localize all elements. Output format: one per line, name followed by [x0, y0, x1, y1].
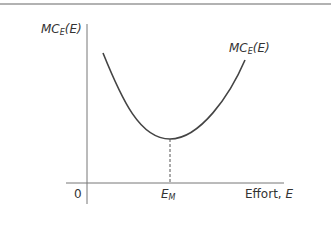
curve-label: MCE(E)	[229, 41, 270, 55]
origin-label: 0	[74, 187, 82, 201]
min-effort-label: EM	[161, 187, 176, 201]
x-axis-label: Effort, E	[245, 187, 293, 201]
mc-curve	[103, 53, 245, 139]
y-axis-label: MCE(E)	[41, 22, 82, 36]
